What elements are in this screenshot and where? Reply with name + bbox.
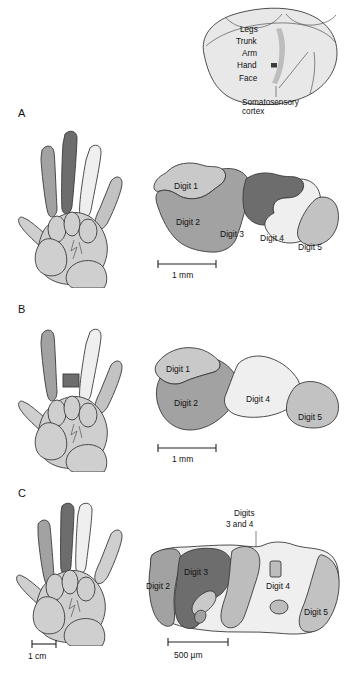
hand-b-digit5 bbox=[95, 361, 122, 414]
scale-c-map-label: 500 µm bbox=[174, 650, 203, 660]
scale-bar-b: 1 mm bbox=[150, 442, 260, 470]
brain-label-legs: Legs bbox=[240, 25, 258, 34]
scale-bar-c-map: 500 µm bbox=[160, 636, 280, 666]
hand-c-palm bbox=[33, 570, 105, 646]
map-b-label-digit2: Digit 2 bbox=[174, 398, 198, 408]
brain-label-arm: Arm bbox=[242, 49, 257, 58]
scale-bar-c-hand: 1 cm bbox=[26, 638, 106, 666]
hand-a-digit4 bbox=[80, 145, 101, 218]
callout-label-line2: cortex bbox=[242, 107, 264, 116]
map-c-label-digit2: Digit 2 bbox=[146, 581, 170, 591]
hand-a-digit3 bbox=[62, 131, 77, 213]
hand-b-digit3-stump bbox=[63, 374, 79, 387]
brain-label-hand: Hand bbox=[237, 61, 257, 70]
map-c-label-digit4: Digit 4 bbox=[266, 581, 290, 591]
hand-a-palm bbox=[35, 212, 107, 288]
map-c-digit4-island-1 bbox=[270, 561, 281, 577]
hand-b-palm bbox=[35, 396, 107, 472]
annotation-line2: 3 and 4 bbox=[226, 520, 254, 529]
brain-label-face: Face bbox=[239, 74, 258, 83]
map-b-label-digit1: Digit 1 bbox=[166, 364, 190, 374]
map-b-label-digit5: Digit 5 bbox=[298, 412, 322, 422]
hand-marker-icon bbox=[271, 63, 277, 68]
hand-b-digit2 bbox=[41, 330, 57, 401]
hand-diagram-b bbox=[8, 312, 138, 472]
brain-label-trunk: Trunk bbox=[236, 37, 258, 46]
map-a-regions bbox=[154, 163, 339, 252]
hand-a-digit5 bbox=[95, 177, 122, 230]
brain-inset: Legs Trunk Arm Hand Face Somatosensory bbox=[182, 2, 344, 110]
map-a-label-digit1: Digit 1 bbox=[174, 181, 198, 191]
map-b-label-digit4: Digit 4 bbox=[246, 394, 270, 404]
cortical-map-a: Digit 1 Digit 2 Digit 3 Digit 4 Digit 5 bbox=[146, 155, 344, 260]
hand-a-digit2 bbox=[41, 146, 57, 217]
map-a-label-digit5: Digit 5 bbox=[298, 242, 322, 252]
scale-bar-a: 1 mm bbox=[150, 258, 260, 286]
map-c-label-digit3: Digit 3 bbox=[184, 567, 208, 577]
hand-c-digit5 bbox=[95, 530, 122, 584]
hand-diagram-c bbox=[8, 496, 138, 646]
brain-callout-line2-wrap: cortex bbox=[182, 104, 344, 118]
map-c-regions bbox=[149, 542, 339, 634]
brain-outline bbox=[203, 8, 337, 104]
hand-diagram-a bbox=[8, 118, 138, 288]
map-a-label-digit4: Digit 4 bbox=[260, 233, 284, 243]
map-a-label-digit3: Digit 3 bbox=[220, 229, 244, 239]
annotation-line1: Digits bbox=[234, 509, 254, 518]
figure-root: Legs Trunk Arm Hand Face Somatosensory c… bbox=[0, 0, 344, 686]
scale-c-hand-label: 1 cm bbox=[28, 651, 46, 661]
cortical-map-c: Digit 2 Digit 3 Digit 4 Digit 5 bbox=[146, 533, 344, 643]
scale-a-label: 1 mm bbox=[172, 270, 193, 280]
map-a-label-digit2: Digit 2 bbox=[176, 217, 200, 227]
hand-c-digit3 bbox=[61, 503, 74, 573]
hand-b-digit4 bbox=[80, 329, 101, 402]
map-c-digit4-island-2 bbox=[270, 600, 288, 614]
map-c-label-digit5: Digit 5 bbox=[304, 607, 328, 617]
scale-b-label: 1 mm bbox=[172, 454, 193, 464]
hand-c-digit4 bbox=[76, 503, 92, 573]
cortical-map-b: Digit 1 Digit 2 Digit 4 Digit 5 bbox=[146, 340, 344, 445]
